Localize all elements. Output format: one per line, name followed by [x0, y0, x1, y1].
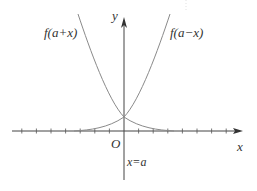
- curve-f-a-plus-x: [78, 14, 174, 131]
- label-origin: O: [111, 136, 121, 151]
- label-x-axis: x: [236, 139, 243, 154]
- x-axis: [12, 128, 243, 134]
- curve-f-a-minus-x: [74, 14, 170, 131]
- label-y-axis: y: [110, 8, 118, 23]
- label-left-curve: f(a+x): [44, 25, 77, 40]
- label-right-curve: f(a−x): [170, 25, 203, 40]
- function-symmetry-diagram: f(a+x) f(a−x) y x O x=a: [0, 0, 257, 191]
- label-symmetry-line: x=a: [126, 155, 146, 169]
